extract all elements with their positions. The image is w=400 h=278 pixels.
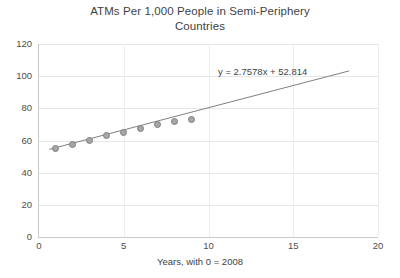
- y-axis-tick-label: 40: [2, 167, 32, 178]
- trendline-equation-label: y = 2.7578x + 52.814: [218, 66, 307, 77]
- trendline-layer: [0, 0, 400, 278]
- chart-container: ATMs Per 1,000 People in Semi-Periphery …: [0, 0, 400, 278]
- x-axis-tick-label: 20: [363, 240, 393, 251]
- x-axis-title: Years, with 0 = 2008: [0, 256, 400, 267]
- x-axis-tick-label: 5: [109, 240, 139, 251]
- data-point: [171, 118, 178, 125]
- data-point: [154, 121, 161, 128]
- y-axis-tick-label: 120: [2, 38, 32, 49]
- y-axis-tick-label: 80: [2, 102, 32, 113]
- y-axis-tick-label: 100: [2, 70, 32, 81]
- x-axis-tick-label: 0: [24, 240, 54, 251]
- x-axis-tick-label: 15: [278, 240, 308, 251]
- trendline: [49, 71, 349, 150]
- x-axis-tick-label: 10: [194, 240, 224, 251]
- y-axis-tick-label: 20: [2, 199, 32, 210]
- y-axis-tick-label: 60: [2, 135, 32, 146]
